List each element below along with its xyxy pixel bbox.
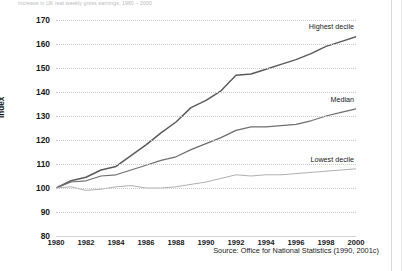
series-label-lowest-decile: Lowest decile — [310, 154, 354, 163]
series-lines — [56, 20, 356, 236]
page-edge-rule — [401, 0, 402, 271]
y-tick-label: 160 — [6, 39, 50, 49]
gridline-80 — [56, 236, 356, 237]
series-label-highest-decile: Highest decile — [309, 21, 354, 30]
gridline-90 — [56, 212, 356, 213]
y-tick-label: 90 — [6, 207, 50, 217]
chart-figure: Increase in UK real weekly gross earning… — [0, 0, 403, 271]
gridline-100 — [56, 188, 356, 189]
y-axis-ticks: 1701601501401301201101009080 — [0, 20, 50, 236]
gridline-150 — [56, 68, 356, 69]
source-note: Source: Office for National Statistics (… — [213, 246, 379, 255]
x-tick-label: 1984 — [108, 238, 125, 247]
x-tick-label: 1980 — [48, 238, 65, 247]
y-tick-label: 150 — [6, 63, 50, 73]
y-tick-label: 100 — [6, 183, 50, 193]
plot-area: Highest decileMedianLowest decile — [56, 20, 356, 236]
series-line-median — [56, 109, 356, 188]
y-tick-label: 110 — [6, 159, 50, 169]
y-tick-label: 80 — [6, 231, 50, 241]
y-tick-label: 140 — [6, 87, 50, 97]
gridline-160 — [56, 44, 356, 45]
series-label-median: Median — [330, 94, 354, 103]
series-line-highest-decile — [56, 37, 356, 188]
x-tick-label: 1990 — [198, 238, 215, 247]
gridline-130 — [56, 116, 356, 117]
y-tick-label: 120 — [6, 135, 50, 145]
x-tick-label: 1982 — [78, 238, 95, 247]
x-tick-label: 1986 — [138, 238, 155, 247]
gridline-140 — [56, 92, 356, 93]
gridline-110 — [56, 164, 356, 165]
y-tick-label: 170 — [6, 15, 50, 25]
figure-caption: Increase in UK real weekly gross earning… — [18, 0, 348, 8]
gridline-120 — [56, 140, 356, 141]
page-gutter-rule — [391, 0, 392, 271]
x-tick-label: 1988 — [168, 238, 185, 247]
y-tick-label: 130 — [6, 111, 50, 121]
